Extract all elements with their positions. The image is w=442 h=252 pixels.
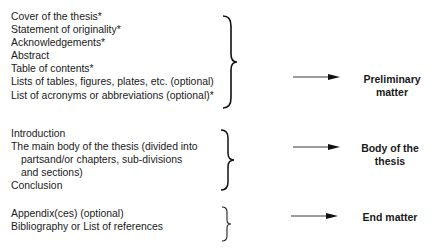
list-item: Table of contents* xyxy=(11,62,214,75)
brace-icon xyxy=(220,14,240,110)
list-item: Cover of the thesis* xyxy=(11,10,214,23)
end-matter-label: End matter xyxy=(345,211,435,224)
list-item: Appendix(ces) (optional) xyxy=(11,207,163,220)
preliminary-items-list: Cover of the thesis* Statement of origin… xyxy=(11,10,214,102)
label-line: matter xyxy=(347,86,437,99)
list-item: Bibliography or List of references xyxy=(11,220,163,233)
list-item: Conclusion xyxy=(11,179,198,192)
label-line: thesis xyxy=(345,155,435,168)
brace-icon xyxy=(220,206,234,242)
list-item: Lists of tables, figures, plates, etc. (… xyxy=(11,75,214,88)
list-item: Acknowledgements* xyxy=(11,36,214,49)
brace-icon xyxy=(218,129,238,191)
label-line: Body of the xyxy=(345,142,435,155)
list-item: partsand/or chapters, sub-divisions xyxy=(11,153,198,166)
list-item: Statement of originality* xyxy=(11,23,214,36)
body-of-thesis-label: Body of the thesis xyxy=(345,142,435,168)
list-item: List of acronyms or abbreviations (optio… xyxy=(11,89,214,102)
arrow-right-icon xyxy=(292,142,342,152)
end-items-list: Appendix(ces) (optional) Bibliography or… xyxy=(11,207,163,233)
list-item: The main body of the thesis (divided int… xyxy=(11,140,198,153)
list-item: and sections) xyxy=(11,166,198,179)
body-items-list: Introduction The main body of the thesis… xyxy=(11,127,198,192)
arrow-right-icon xyxy=(290,211,340,221)
label-line: Preliminary xyxy=(347,73,437,86)
preliminary-matter-label: Preliminary matter xyxy=(347,73,437,99)
label-line: End matter xyxy=(345,211,435,224)
list-item: Introduction xyxy=(11,127,198,140)
list-item: Abstract xyxy=(11,49,214,62)
arrow-right-icon xyxy=(292,72,342,82)
